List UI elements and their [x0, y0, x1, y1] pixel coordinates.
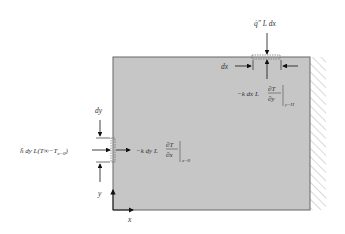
top-conduction-eval: y=H: [284, 102, 295, 107]
top-flux-label: q̇″ L dx: [254, 19, 276, 28]
left-conduction-eval: x=0: [181, 158, 191, 163]
left-conduction-num: ∂T: [166, 141, 174, 149]
left-conduction-den: ∂x: [166, 151, 173, 159]
y-axis-label: y: [97, 189, 102, 198]
dx-label: dx: [221, 62, 229, 71]
plate: [113, 57, 310, 210]
top-conduction-num: ∂T: [268, 85, 276, 93]
top-conduction-den: ∂y: [268, 95, 275, 103]
top-conduction-prefix: −k dx L: [237, 90, 259, 98]
dy-label: dy: [95, 106, 103, 115]
wall-hatch: [310, 57, 326, 210]
heat-transfer-diagram: q̇″ L dx dx −k dx L ∂T ∂y y=H dy h̄ dy L…: [0, 0, 345, 234]
left-convection-label: h̄ dy L(T∞−Tx=0): [20, 147, 68, 156]
left-conduction-prefix: −k dy L: [136, 147, 158, 155]
x-axis-label: x: [127, 215, 132, 224]
